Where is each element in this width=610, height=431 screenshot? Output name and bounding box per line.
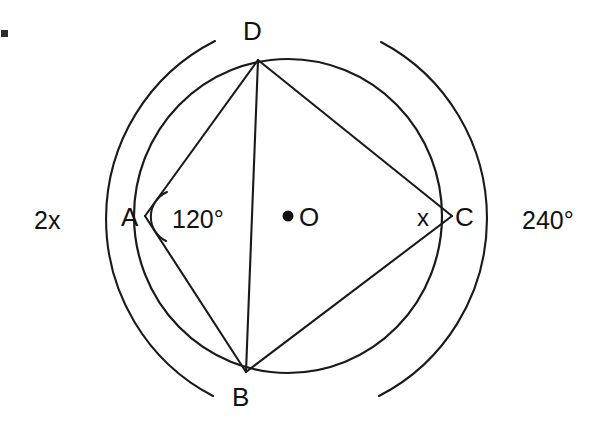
chord-BA (145, 216, 246, 372)
vertex-label-c: C (455, 202, 474, 232)
corner-mark-icon (1, 30, 8, 37)
angle-label-a: 120° (172, 205, 224, 233)
vertex-label-a: A (121, 202, 139, 232)
diagonal-DB (246, 60, 258, 372)
centre-point-dot (283, 211, 294, 222)
arc-label-right: 240° (522, 206, 574, 234)
geometry-figure: A B C D O 120° x 2x 240° (0, 0, 610, 431)
arc-label-left: 2x (34, 206, 61, 234)
vertex-label-d: D (243, 16, 262, 46)
vertex-label-b: B (232, 382, 249, 412)
angle-label-c: x (417, 204, 429, 231)
angle-arc-marker-A (151, 192, 167, 241)
centre-label-o: O (299, 202, 319, 232)
chord-AD (145, 60, 258, 216)
